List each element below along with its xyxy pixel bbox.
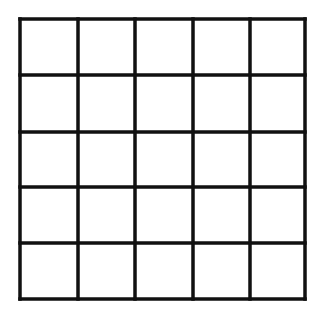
background	[0, 0, 323, 313]
grid-diagram	[0, 0, 323, 313]
